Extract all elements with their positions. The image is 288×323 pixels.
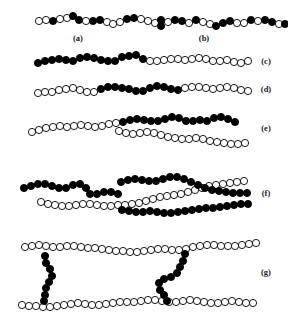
open-bead [130,298,137,305]
filled-bead [268,18,275,25]
filled-bead [203,117,210,124]
filled-bead [229,189,236,196]
open-bead [62,85,69,92]
open-bead [37,198,44,205]
filled-bead [261,16,268,23]
open-bead [167,55,174,62]
open-bead [244,57,251,64]
filled-bead [215,187,222,194]
open-bead [49,123,56,130]
open-bead [223,56,230,63]
filled-bead [244,200,251,207]
open-bead [237,59,244,66]
open-bead [42,124,49,131]
filled-bead [41,252,48,259]
filled-bead [132,208,139,215]
open-bead [245,240,252,247]
open-bead [163,192,170,199]
open-bead [67,300,74,307]
filled-bead [231,118,238,125]
filled-bead [145,177,152,184]
open-bead [76,86,83,93]
filled-bead [187,178,194,185]
open-bead [70,122,77,129]
open-bead [116,298,123,305]
open-bead [126,248,133,255]
open-bead [48,88,55,95]
filled-bead [27,182,34,189]
filled-bead [168,113,175,120]
filled-bead [140,116,147,123]
filled-bead [62,184,69,191]
open-bead [105,120,112,127]
open-bead [74,299,81,306]
open-bead [181,84,188,91]
open-bead [174,55,181,62]
open-bead [137,297,144,304]
open-bead [123,298,130,305]
open-bead [28,242,35,249]
filled-bead [90,54,97,61]
filled-bead [117,178,124,185]
panel-label-c: (c) [261,56,271,66]
filled-bead [217,113,224,120]
filled-bead [188,206,195,213]
open-bead [63,123,70,130]
filled-bead [181,207,188,214]
open-bead [18,301,25,308]
open-bead [213,138,220,145]
open-bead [119,247,126,254]
filled-bead [93,190,100,197]
filled-bead [243,189,250,196]
filled-bead [163,297,170,304]
open-bead [93,201,100,208]
open-bead [242,299,249,306]
filled-bead [236,189,243,196]
open-bead [168,246,175,253]
open-bead [188,55,195,62]
open-bead [241,139,248,146]
filled-bead [281,20,288,27]
open-bead [133,248,140,255]
open-bead [221,298,228,305]
open-bead [136,129,143,136]
filled-bead [139,87,146,94]
filled-bead [153,208,160,215]
panel-label-e: (e) [261,123,271,133]
open-bead [98,245,105,252]
open-bead [171,134,178,141]
open-bead [244,87,251,94]
open-bead [189,243,196,250]
open-bead [164,133,171,140]
filled-bead [125,207,132,214]
filled-bead [131,175,138,182]
open-bead [144,296,151,303]
open-bead [35,17,42,24]
filled-bead [41,57,48,64]
open-bead [209,57,216,64]
open-bead [170,191,177,198]
open-bead [137,15,144,22]
filled-bead [48,182,55,189]
filled-bead [152,177,159,184]
open-bead [231,242,238,249]
open-bead [192,134,199,141]
filled-bead [196,116,203,123]
filled-bead [69,57,76,64]
filled-bead [132,51,139,58]
open-bead [149,195,156,202]
open-bead [35,126,42,133]
filled-bead [130,14,137,21]
filled-bead [119,118,126,125]
open-bead [185,19,192,26]
open-bead [216,57,223,64]
filled-bead [237,200,244,207]
open-bead [153,57,160,64]
open-bead [220,139,227,146]
open-bead [100,202,107,209]
open-bead [178,135,185,142]
filled-bead [69,181,76,188]
open-bead [210,241,217,248]
open-bead [25,302,32,309]
filled-bead [167,209,174,216]
